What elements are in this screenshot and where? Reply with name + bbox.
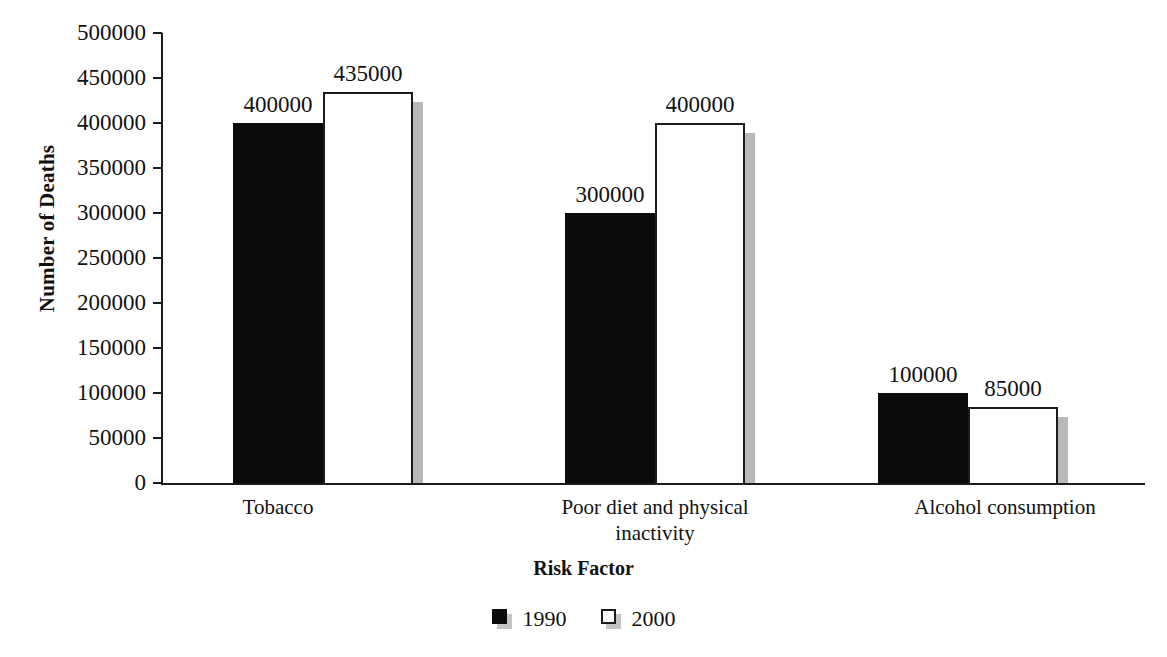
bar-shadow bbox=[745, 133, 755, 485]
y-axis-tick-label: 400000 bbox=[0, 111, 146, 134]
y-axis-tick-label: 0 bbox=[0, 471, 146, 494]
y-axis-tick-label: 150000 bbox=[0, 336, 146, 359]
bar-2000-1 bbox=[323, 92, 413, 486]
bar-1990-1 bbox=[233, 123, 323, 485]
y-axis-tick-label: 450000 bbox=[0, 66, 146, 89]
bar-2000-3 bbox=[968, 407, 1058, 486]
y-axis-tick-label: 200000 bbox=[0, 291, 146, 314]
y-axis-tick-label: 500000 bbox=[0, 21, 146, 44]
x-tick-label-line: Tobacco bbox=[178, 494, 378, 520]
bar-1990-2 bbox=[565, 213, 655, 485]
legend-item-1990: 1990 bbox=[492, 608, 567, 630]
bar-shadow bbox=[413, 102, 423, 486]
x-axis-title: Risk Factor bbox=[0, 557, 1167, 580]
bar-2000-2 bbox=[655, 123, 745, 485]
x-tick-label-poor-diet: Poor diet and physical inactivity bbox=[510, 494, 800, 546]
x-axis-line bbox=[161, 483, 1145, 485]
legend-label-2000: 2000 bbox=[632, 608, 676, 630]
x-tick-label-line: Poor diet and physical bbox=[510, 494, 800, 520]
x-tick-label-alcohol: Alcohol consumption bbox=[870, 494, 1140, 520]
x-tick-label-line: Alcohol consumption bbox=[870, 494, 1140, 520]
bar-value-label: 85000 bbox=[944, 377, 1082, 400]
bar-shadow bbox=[1058, 417, 1068, 486]
bar-value-label: 435000 bbox=[299, 62, 437, 85]
legend-label-1990: 1990 bbox=[523, 608, 567, 630]
legend-swatch-2000-wrap bbox=[601, 609, 623, 629]
bar-chart: Number of Deaths 05000010000015000020000… bbox=[0, 0, 1167, 657]
legend-swatch-1990-wrap bbox=[492, 609, 514, 629]
y-axis-tick-label: 300000 bbox=[0, 201, 146, 224]
legend-item-2000: 2000 bbox=[601, 608, 676, 630]
x-tick-label-line: inactivity bbox=[510, 520, 800, 546]
y-axis-line bbox=[161, 33, 163, 484]
y-axis-tick-label: 100000 bbox=[0, 381, 146, 404]
legend-swatch-2000 bbox=[601, 609, 616, 624]
y-axis-tick-label: 50000 bbox=[0, 426, 146, 449]
y-axis-tick-label: 350000 bbox=[0, 156, 146, 179]
bar-1990-3 bbox=[878, 393, 968, 485]
chart-legend: 1990 2000 bbox=[0, 608, 1167, 630]
bar-value-label: 400000 bbox=[631, 93, 769, 116]
legend-swatch-1990 bbox=[492, 609, 507, 624]
y-axis-tick-label: 250000 bbox=[0, 246, 146, 269]
x-tick-label-tobacco: Tobacco bbox=[178, 494, 378, 520]
